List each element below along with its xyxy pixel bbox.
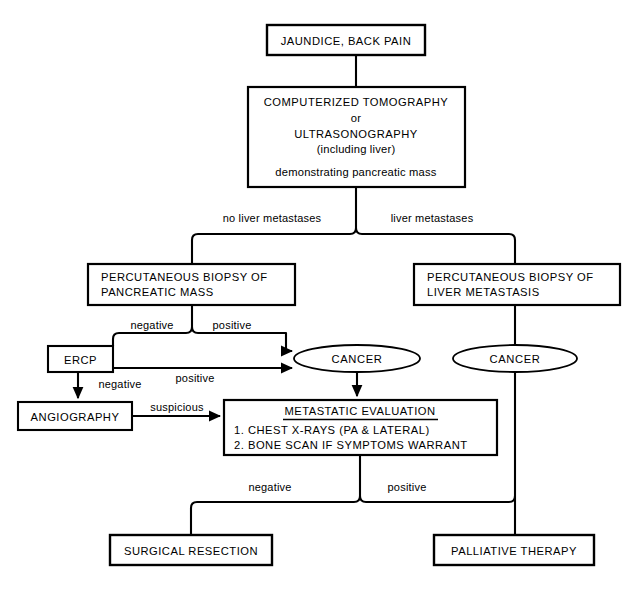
pancreatic-biopsy-line-2: PANCREATIC MASS [101, 286, 214, 298]
metastatic-evaluation-item-2: 2. BONE SCAN IF SYMPTOMS WARRANT [234, 439, 468, 451]
edge-label-ercp-positive: positive [176, 372, 215, 384]
ercp-label: ERCP [64, 354, 97, 366]
node-liver-biopsy[interactable]: PERCUTANEOUS BIOPSY OF LIVER METASTASIS [414, 264, 620, 305]
edge-label-biopsy-positive: positive [213, 319, 252, 331]
imaging-line-4: (including liver) [317, 143, 396, 155]
node-ercp[interactable]: ERCP [48, 346, 113, 372]
edge-label-angiography-suspicious: suspicious [150, 401, 204, 413]
node-cancer-left[interactable]: CANCER [294, 345, 420, 372]
imaging-line-3: ULTRASONOGRAPHY [294, 128, 418, 140]
cancer-right-label: CANCER [490, 353, 541, 365]
edge-label-liver-metastases: liver metastases [391, 212, 474, 224]
metastatic-evaluation-item-1: 1. CHEST X-RAYS (PA & LATERAL) [234, 424, 430, 436]
edge-label-no-liver-metastases: no liver metastases [223, 212, 322, 224]
flowchart-canvas: JAUNDICE, BACK PAIN COMPUTERIZED TOMOGRA… [0, 0, 638, 590]
imaging-line-2: or [351, 112, 361, 124]
liver-biopsy-line-1: PERCUTANEOUS BIOPSY OF [427, 271, 594, 283]
surgical-resection-label: SURGICAL RESECTION [124, 545, 258, 557]
metastatic-evaluation-heading: METASTATIC EVALUATION [284, 405, 435, 417]
edge-label-eval-negative: negative [248, 481, 291, 493]
imaging-line-5: demonstrating pancreatic mass [275, 166, 436, 178]
edge-eval-positive-to-palliative [360, 496, 515, 502]
palliative-therapy-label: PALLIATIVE THERAPY [451, 545, 577, 557]
node-surgical-resection[interactable]: SURGICAL RESECTION [110, 535, 272, 565]
edge-label-biopsy-negative: negative [130, 319, 173, 331]
node-presentation[interactable]: JAUNDICE, BACK PAIN [267, 25, 425, 55]
edge-label-eval-positive: positive [388, 481, 427, 493]
node-imaging[interactable]: COMPUTERIZED TOMOGRAPHY or ULTRASONOGRAP… [248, 87, 465, 187]
cancer-left-label: CANCER [332, 353, 383, 365]
edge-split-to-pancreatic-biopsy [192, 228, 356, 264]
edge-split-to-liver-biopsy [356, 228, 515, 264]
angiography-label: ANGIOGRAPHY [31, 411, 120, 423]
node-metastatic-evaluation[interactable]: METASTATIC EVALUATION 1. CHEST X-RAYS (P… [224, 400, 497, 455]
liver-biopsy-line-2: LIVER METASTASIS [427, 286, 540, 298]
node-angiography[interactable]: ANGIOGRAPHY [18, 402, 132, 430]
node-pancreatic-biopsy[interactable]: PERCUTANEOUS BIOPSY OF PANCREATIC MASS [88, 264, 295, 305]
pancreatic-biopsy-line-1: PERCUTANEOUS BIOPSY OF [101, 271, 268, 283]
flowchart-diagram: JAUNDICE, BACK PAIN COMPUTERIZED TOMOGRA… [0, 0, 638, 590]
node-palliative-therapy[interactable]: PALLIATIVE THERAPY [434, 535, 594, 565]
node-cancer-right[interactable]: CANCER [453, 345, 577, 372]
imaging-line-1: COMPUTERIZED TOMOGRAPHY [264, 96, 449, 108]
edge-label-ercp-negative: negative [98, 378, 141, 390]
presentation-label: JAUNDICE, BACK PAIN [281, 35, 412, 47]
edge-eval-negative-to-surgical [191, 496, 360, 535]
